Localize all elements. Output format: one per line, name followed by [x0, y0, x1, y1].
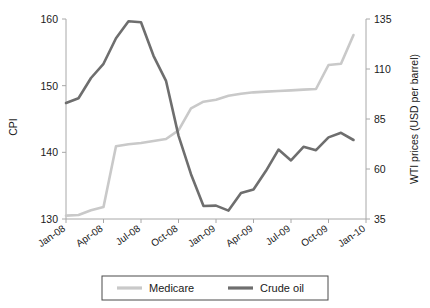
right-tick-label: 110: [374, 63, 391, 75]
right-tick-label: 85: [374, 113, 386, 125]
x-tick-label: Apr-08: [74, 222, 105, 248]
series-line-medicare: [66, 35, 354, 216]
y2-axis-title: WTI prices (USD per barrel): [408, 54, 420, 184]
left-tick-label: 160: [40, 13, 58, 25]
x-tick-label: Oct-09: [299, 222, 330, 248]
left-tick-label: 140: [40, 146, 58, 158]
x-tick-label: Jul-08: [114, 222, 143, 247]
x-axis-ticks: Jan-08Apr-08Jul-08Oct-08Jan-09Apr-09Jul-…: [36, 219, 368, 249]
right-axis-ticks: 356085110135: [366, 13, 392, 225]
right-tick-label: 60: [374, 163, 386, 175]
x-tick-label: Jul-09: [264, 222, 293, 247]
legend-label-medicare: Medicare: [149, 282, 194, 294]
chart-legend: Medicare Crude oil: [102, 276, 328, 300]
chart-container: 130140150160 356085110135 Jan-08Apr-08Ju…: [0, 0, 430, 308]
right-tick-label: 35: [374, 213, 386, 225]
left-tick-label: 150: [40, 80, 58, 92]
x-tick-label: Jan-08: [36, 222, 68, 249]
x-tick-label: Oct-08: [149, 222, 180, 248]
left-axis-ticks: 130140150160: [40, 13, 66, 225]
right-tick-label: 135: [374, 13, 392, 25]
legend-label-crude-oil: Crude oil: [260, 282, 304, 294]
x-tick-label: Apr-09: [224, 222, 255, 248]
data-series-group: [66, 21, 354, 215]
x-tick-label: Jan-09: [186, 222, 218, 249]
x-tick-label: Jan-10: [336, 222, 368, 249]
y-axis-title: CPI: [7, 118, 19, 136]
line-chart: 130140150160 356085110135 Jan-08Apr-08Ju…: [0, 0, 430, 308]
left-tick-label: 130: [40, 213, 58, 225]
